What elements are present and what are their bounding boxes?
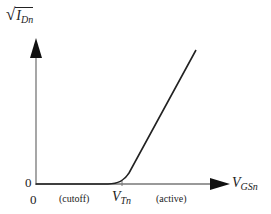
threshold-label: VTn (112, 190, 131, 204)
threshold-label-main: V (112, 189, 121, 204)
x-axis-label: VGSn (232, 176, 258, 190)
y-axis-arrowhead-icon (30, 38, 42, 58)
x-axis-label-main: V (232, 175, 241, 190)
active-region-label: (active) (156, 194, 187, 204)
sqrt-symbol: √ (6, 5, 15, 24)
diagram-canvas (0, 0, 271, 214)
x-axis-arrowhead-icon (210, 178, 230, 190)
x-origin-label: 0 (30, 193, 37, 206)
cutoff-region-label: (cutoff) (59, 194, 89, 204)
y-axis-label-sub: Dn (21, 14, 33, 25)
threshold-label-sub: Tn (121, 195, 132, 206)
y-origin-label: 0 (25, 176, 32, 189)
sqrt-id-curve (36, 50, 196, 184)
x-axis-label-sub: GSn (241, 181, 258, 192)
y-axis-label: √IDn (6, 6, 33, 23)
